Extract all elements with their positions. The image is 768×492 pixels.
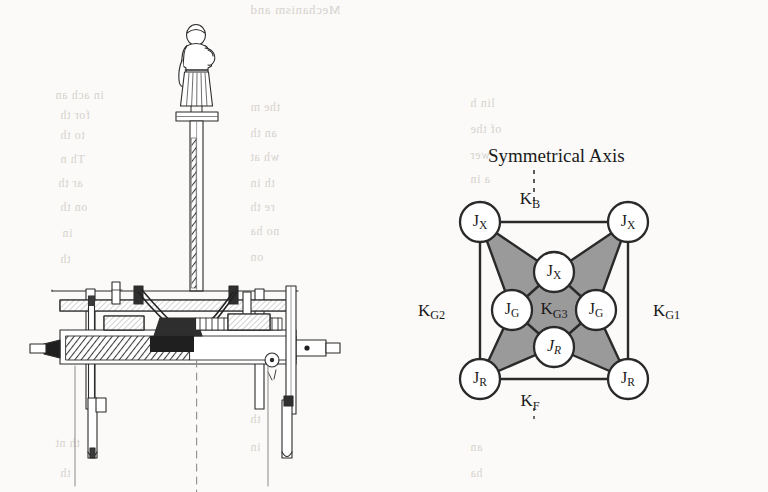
figurine-statuette xyxy=(176,25,218,122)
node-label-inner-top: JX xyxy=(547,263,562,282)
edge-label-right-link: KG1 xyxy=(653,302,680,322)
ghost-text: ha xyxy=(470,466,483,481)
edge-label-left-link: KG2 xyxy=(418,302,445,322)
node-label-corner-top-right: JX xyxy=(621,213,636,232)
ghost-text: lin h xyxy=(470,96,495,111)
figure-canvas: Mechanism andin ach anfor ththe mlin hto… xyxy=(0,0,768,492)
node-label-corner-top-left: JX xyxy=(473,213,488,232)
edge-label-center-link: KG3 xyxy=(540,300,567,320)
mechanism-illustration xyxy=(0,0,400,492)
node-label-corner-bottom-right: JR xyxy=(621,370,635,389)
lower-chassis xyxy=(75,366,268,486)
edge-label-top-link: KB xyxy=(520,190,540,210)
node-label-inner-bottom: JR xyxy=(547,338,561,357)
kinematic-diagram: Symmetrical Axis xyxy=(410,140,768,440)
node-label-inner-right: JG xyxy=(589,301,604,320)
edge-label-bottom-link: KF xyxy=(520,392,539,412)
node-label-corner-bottom-left: JR xyxy=(473,370,487,389)
node-label-inner-left: JG xyxy=(505,301,520,320)
vertical-shaft xyxy=(190,121,203,291)
kinematic-svg xyxy=(410,140,768,440)
mechanism-svg xyxy=(0,0,400,492)
symmetrical-axis-label: Symmetrical Axis xyxy=(488,146,625,165)
ghost-text: of the xyxy=(470,122,501,137)
